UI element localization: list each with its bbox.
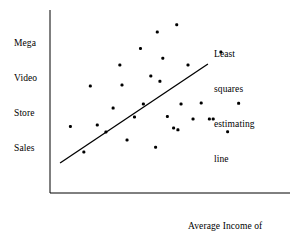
data-point — [133, 116, 136, 119]
y-axis-label: Mega Video Store Sales — [14, 15, 37, 177]
annotation-line-1: Least — [214, 49, 255, 61]
data-point — [69, 125, 72, 128]
data-point — [89, 84, 92, 87]
data-point — [96, 123, 99, 126]
data-point — [82, 151, 85, 154]
data-point — [158, 80, 161, 83]
least-squares-line — [60, 64, 208, 163]
data-point — [180, 102, 183, 105]
data-point — [208, 118, 211, 121]
data-point — [118, 63, 121, 66]
regression-line-segment — [60, 64, 208, 163]
data-point — [200, 101, 203, 104]
data-point — [175, 23, 178, 26]
data-point — [149, 74, 152, 77]
data-point — [154, 146, 157, 149]
y-axis-label-line-2: Video — [14, 73, 37, 85]
y-axis-label-line-3: Store — [14, 108, 37, 120]
x-axis-label-line-1: Average Income of — [188, 221, 272, 233]
data-point — [156, 30, 159, 33]
data-point — [192, 117, 195, 120]
annotation-line-3: estimating — [214, 119, 255, 131]
data-point — [172, 127, 175, 130]
data-point — [121, 84, 124, 87]
data-point — [166, 115, 169, 118]
data-point — [112, 107, 115, 110]
data-point — [139, 47, 142, 50]
data-point — [187, 63, 190, 66]
data-point — [161, 57, 164, 60]
data-point — [126, 138, 129, 141]
scatter-plot-figure: Mega Video Store Sales Average Income of… — [0, 0, 295, 233]
data-point — [176, 128, 179, 131]
least-squares-annotation: Least squares estimating line — [214, 26, 255, 188]
y-axis-label-line-1: Mega — [14, 38, 37, 50]
annotation-line-4: line — [214, 154, 255, 166]
data-point — [142, 102, 145, 105]
y-axis-label-line-4: Sales — [14, 143, 37, 155]
x-axis-label: Average Income of Renters in Store Area — [188, 198, 272, 233]
annotation-line-2: squares — [214, 84, 255, 96]
